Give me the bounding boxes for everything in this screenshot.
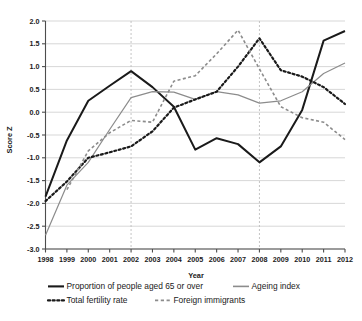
x-tick-label: 2000 — [80, 255, 96, 264]
y-tick-label: -3.0 — [27, 245, 39, 254]
x-tick-label: 2009 — [273, 255, 289, 264]
x-tick-label: 2008 — [251, 255, 267, 264]
grid-lines — [46, 21, 346, 249]
x-tick-label: 1999 — [59, 255, 75, 264]
x-tick-label: 2005 — [187, 255, 203, 264]
legend-label-3: Foreign immigrants — [174, 295, 246, 305]
x-tick-label: 2007 — [230, 255, 246, 264]
y-tick-label: -2.5 — [27, 222, 39, 231]
x-tick-label: 2010 — [294, 255, 310, 264]
series-line-2 — [46, 38, 346, 201]
x-axis-title: Year — [188, 271, 204, 280]
chart-figure: 2.01.51.00.50.0-0.5-1.0-1.5-2.0-2.5-3.0 … — [0, 0, 362, 321]
x-tick-label: 2001 — [102, 255, 118, 264]
y-tick-label: 1.0 — [30, 62, 40, 71]
y-tick-label: -2.0 — [27, 199, 39, 208]
line-chart: 2.01.51.00.50.0-0.5-1.0-1.5-2.0-2.5-3.0 … — [0, 0, 362, 321]
x-tick-label: 2012 — [337, 255, 353, 264]
y-tick-label: 2.0 — [30, 17, 40, 26]
y-tick-label: 0.0 — [30, 108, 40, 117]
x-axis-ticks: 1998199920002001200220032004200520062007… — [38, 249, 354, 264]
x-tick-label: 2003 — [144, 255, 160, 264]
x-tick-label: 2006 — [209, 255, 225, 264]
y-axis-title: Score Z — [5, 126, 14, 154]
series-line-3 — [67, 30, 345, 190]
y-axis-ticks: 2.01.51.00.50.0-0.5-1.0-1.5-2.0-2.5-3.0 — [27, 17, 45, 254]
series-line-0 — [46, 31, 346, 197]
y-tick-label: -0.5 — [27, 131, 39, 140]
y-tick-label: -1.0 — [27, 153, 39, 162]
legend-label-2: Total fertility rate — [67, 295, 128, 305]
y-tick-label: 0.5 — [30, 85, 40, 94]
x-tick-label: 2002 — [123, 255, 139, 264]
x-tick-label: 2011 — [316, 255, 332, 264]
legend: Proportion of people aged 65 or overAgei… — [48, 281, 301, 305]
x-tick-label: 1998 — [38, 255, 54, 264]
legend-label-0: Proportion of people aged 65 or over — [67, 281, 204, 291]
x-tick-label: 2004 — [166, 255, 182, 264]
data-series-group — [46, 30, 346, 235]
y-tick-label: -1.5 — [27, 176, 39, 185]
legend-label-1: Ageing index — [252, 281, 301, 291]
y-tick-label: 1.5 — [30, 39, 40, 48]
